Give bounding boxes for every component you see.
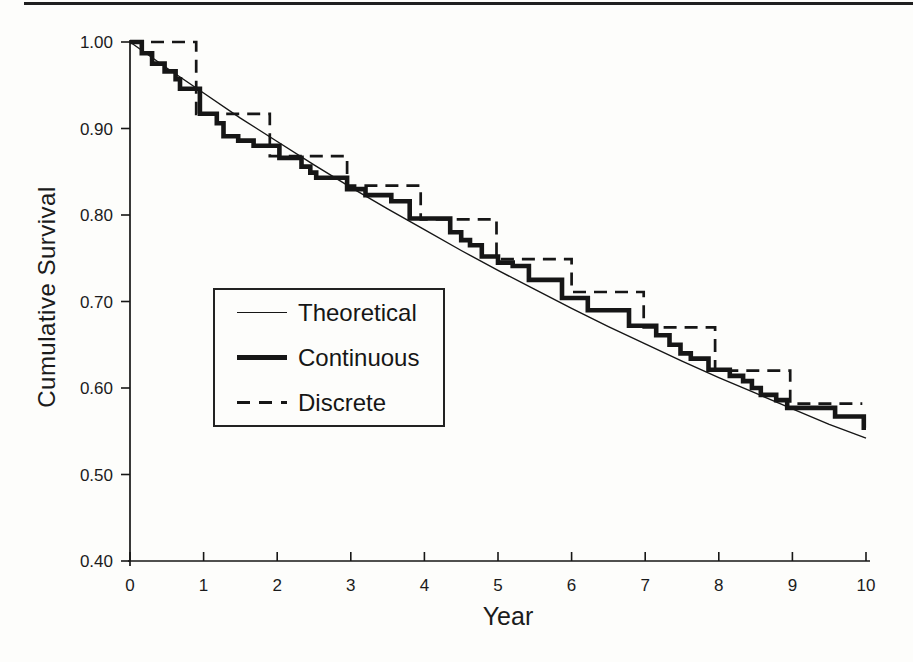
theoretical-line-swatch <box>237 312 287 313</box>
legend-label-continuous: Continuous <box>298 344 419 372</box>
y-tick-label: 0.60 <box>80 379 113 398</box>
x-tick-label: 2 <box>272 576 281 595</box>
x-tick-label: 0 <box>125 576 134 595</box>
x-tick-label: 8 <box>714 576 723 595</box>
discrete-line-swatch <box>237 401 287 404</box>
legend-item-continuous: Continuous <box>215 335 443 380</box>
legend-label-theoretical: Theoretical <box>298 299 417 327</box>
y-tick-label: 0.90 <box>80 120 113 139</box>
y-tick-label: 1.00 <box>80 33 113 52</box>
y-axis-title: Cumulative Survival <box>33 147 63 447</box>
y-tick-label: 0.70 <box>80 293 113 312</box>
legend-box: Theoretical Continuous Discrete <box>213 288 445 427</box>
x-tick-label: 4 <box>420 576 429 595</box>
survival-chart: 1.000.900.800.700.600.500.40012345678910 <box>0 0 913 662</box>
legend-item-theoretical: Theoretical <box>215 290 443 335</box>
x-tick-label: 9 <box>788 576 797 595</box>
x-tick-label: 7 <box>640 576 649 595</box>
legend-item-discrete: Discrete <box>215 380 443 425</box>
legend-label-discrete: Discrete <box>298 389 386 417</box>
x-tick-label: 3 <box>346 576 355 595</box>
scanned-page: 1.000.900.800.700.600.500.40012345678910… <box>0 0 913 662</box>
x-tick-label: 10 <box>857 576 876 595</box>
x-axis-title: Year <box>458 602 558 631</box>
x-tick-label: 1 <box>199 576 208 595</box>
y-tick-label: 0.50 <box>80 466 113 485</box>
x-tick-label: 6 <box>567 576 576 595</box>
y-tick-label: 0.40 <box>80 552 113 571</box>
continuous-line-swatch <box>237 355 287 360</box>
x-tick-label: 5 <box>493 576 502 595</box>
y-tick-label: 0.80 <box>80 206 113 225</box>
